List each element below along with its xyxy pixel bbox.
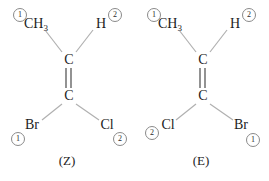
priority-circle-bottom-right: 2 <box>113 132 127 146</box>
priority-circle-top-left: 1 <box>13 8 27 22</box>
molecule-diagram: CH3 1 H 2 C C Br 1 Cl 2 (Z) CH3 1 H 2 C … <box>0 0 269 181</box>
priority-circle-top-right: 2 <box>242 8 256 22</box>
substituent-top-right: H <box>96 17 106 33</box>
substituent-top-left: CH3 <box>24 17 48 33</box>
carbon-bottom: C <box>198 89 207 103</box>
carbon-top: C <box>64 53 73 67</box>
structure-z-isomer: CH3 1 H 2 C C Br 1 Cl 2 (Z) <box>0 0 134 181</box>
substituent-bottom-left: Br <box>25 118 39 134</box>
substituent-bottom-left: Cl <box>161 118 174 134</box>
priority-circle-bottom-left: 2 <box>145 126 159 140</box>
substituent-bottom-right: Br <box>234 118 248 134</box>
priority-circle-bottom-right: 1 <box>246 133 260 147</box>
priority-circle-bottom-left: 1 <box>11 132 25 146</box>
carbon-top: C <box>198 53 207 67</box>
substituent-bottom-right: Cl <box>100 118 113 134</box>
caption-e: (E) <box>134 153 268 169</box>
carbon-bottom: C <box>64 89 73 103</box>
substituent-top-left: CH3 <box>158 17 182 33</box>
priority-circle-top-right: 2 <box>108 8 122 22</box>
structure-e-isomer: CH3 1 H 2 C C Cl 2 Br 1 (E) <box>134 0 268 181</box>
priority-circle-top-left: 1 <box>147 8 161 22</box>
substituent-top-right: H <box>230 17 240 33</box>
caption-z: (Z) <box>0 153 134 169</box>
